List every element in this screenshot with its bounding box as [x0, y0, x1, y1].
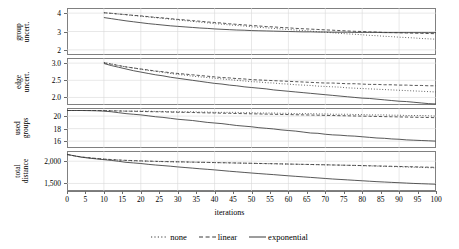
y-tick-mark [64, 97, 67, 98]
x-tick-mark [418, 191, 419, 194]
x-tick-mark [196, 191, 197, 194]
x-tick-mark [178, 191, 179, 194]
x-axis-title: iterations [0, 208, 459, 217]
y-tick-mark [64, 161, 67, 162]
x-tick-mark [85, 191, 86, 194]
x-tick-mark [436, 191, 437, 194]
series-line-linear [104, 13, 436, 34]
y-tick-mark [64, 129, 67, 130]
legend-line-swatch-none [151, 234, 168, 240]
legend-line-swatch-linear [199, 234, 216, 240]
x-tick-label: 75 [340, 195, 348, 204]
x-tick-label: 90 [395, 195, 403, 204]
x-tick-label: 20 [137, 195, 145, 204]
x-tick-label: 0 [65, 195, 69, 204]
x-tick-label: 100 [430, 195, 441, 204]
x-tick-mark [399, 191, 400, 194]
x-tick-label: 50 [248, 195, 256, 204]
x-tick-mark [67, 191, 68, 194]
panel-used-groups [67, 108, 436, 148]
panel-plot-area [67, 58, 436, 105]
x-tick-mark [215, 191, 216, 194]
panel-plot-area [67, 108, 436, 148]
y-tick-mark [64, 50, 67, 51]
x-tick-label: 70 [322, 195, 330, 204]
legend-label: none [170, 232, 187, 242]
x-tick-mark [288, 191, 289, 194]
legend-label: exponential [268, 232, 308, 242]
series-line-exponential [104, 63, 436, 103]
y-tick-mark [64, 141, 67, 142]
x-tick-mark [307, 191, 308, 194]
legend-item-linear[interactable]: linear [199, 231, 237, 242]
x-tick-label: 40 [211, 195, 219, 204]
x-tick-label: 45 [229, 195, 237, 204]
y-tick-mark [64, 32, 67, 33]
x-tick-mark [141, 191, 142, 194]
series-line-none [104, 13, 436, 39]
chart-legend: nonelinearexponential [0, 230, 459, 242]
panel-group-uncert [67, 8, 436, 55]
x-tick-mark [362, 191, 363, 194]
y-tick-mark [64, 183, 67, 184]
multi-panel-line-chart: 0510152025303540455055606570758085909510… [0, 0, 459, 249]
legend-line-swatch-exponential [249, 234, 266, 240]
x-tick-label: 15 [119, 195, 127, 204]
x-tick-mark [381, 191, 382, 194]
x-tick-mark [122, 191, 123, 194]
x-tick-label: 60 [285, 195, 293, 204]
panel-total-distance [67, 151, 436, 191]
legend-label: linear [218, 232, 237, 242]
x-tick-mark [344, 191, 345, 194]
x-tick-mark [270, 191, 271, 194]
x-tick-label: 30 [174, 195, 182, 204]
x-tick-label: 80 [358, 195, 366, 204]
x-tick-mark [252, 191, 253, 194]
series-line-none [104, 62, 436, 92]
x-tick-mark [233, 191, 234, 194]
x-tick-label: 85 [377, 195, 385, 204]
x-tick-label: 95 [414, 195, 422, 204]
x-tick-mark [159, 191, 160, 194]
x-tick-label: 35 [192, 195, 200, 204]
x-tick-label: 10 [100, 195, 108, 204]
legend-item-none[interactable]: none [151, 231, 187, 242]
x-tick-label: 65 [303, 195, 311, 204]
series-line-exponential [104, 18, 436, 33]
panel-plot-area [67, 151, 436, 191]
y-tick-mark [64, 116, 67, 117]
x-tick-mark [325, 191, 326, 194]
y-tick-mark [64, 80, 67, 81]
panel-plot-area [67, 8, 436, 55]
panel-edge-uncert [67, 58, 436, 105]
x-tick-label: 55 [266, 195, 274, 204]
x-tick-label: 5 [84, 195, 88, 204]
x-tick-mark [104, 191, 105, 194]
x-tick-label: 25 [156, 195, 164, 204]
legend-item-exponential[interactable]: exponential [249, 231, 308, 242]
y-tick-mark [64, 13, 67, 14]
y-tick-mark [64, 63, 67, 64]
y-axis-title: total distance [14, 142, 32, 200]
